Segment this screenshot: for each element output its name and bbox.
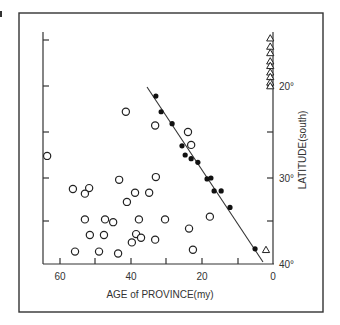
open-circle-marker bbox=[122, 108, 129, 115]
y-tick-40: 40° bbox=[279, 259, 294, 270]
filled-dot-marker bbox=[227, 205, 232, 210]
open-circle-marker bbox=[152, 173, 159, 180]
x-tick-0: 0 bbox=[270, 271, 276, 282]
open-circle-marker bbox=[152, 122, 159, 129]
open-circle-marker bbox=[123, 198, 130, 205]
filled-dot-marker bbox=[179, 143, 184, 148]
y-tick-30: 30° bbox=[279, 173, 294, 184]
open-circle-marker bbox=[185, 225, 192, 232]
open-circle-marker bbox=[86, 231, 93, 238]
open-circle-marker bbox=[44, 152, 51, 159]
open-circle-marker bbox=[206, 213, 213, 220]
data-markers bbox=[44, 35, 274, 257]
y-tick-20: 20° bbox=[279, 81, 294, 92]
scatter-chart: 60 40 20 0 AGE of PROVINCE(my) 20° 30° 4… bbox=[0, 0, 340, 325]
x-tick-40: 40 bbox=[125, 271, 137, 282]
open-circle-marker bbox=[137, 234, 144, 241]
open-circle-marker bbox=[81, 216, 88, 223]
open-circle-marker bbox=[188, 141, 195, 148]
open-circle-marker bbox=[71, 248, 78, 255]
open-circle-marker bbox=[101, 216, 108, 223]
open-circle-marker bbox=[146, 189, 153, 196]
filled-dot-marker bbox=[153, 94, 158, 99]
filled-dot-marker bbox=[208, 175, 213, 180]
open-circle-marker bbox=[114, 250, 121, 257]
open-triangle-marker bbox=[262, 246, 269, 252]
open-circle-marker bbox=[116, 176, 123, 183]
filled-dot-marker bbox=[183, 152, 188, 157]
open-circle-marker bbox=[81, 190, 88, 197]
x-axis bbox=[43, 258, 274, 264]
open-circle-marker bbox=[135, 216, 142, 223]
x-tick-60: 60 bbox=[54, 271, 66, 282]
x-tick-20: 20 bbox=[196, 271, 208, 282]
filled-dot-marker bbox=[195, 160, 200, 165]
regression-line bbox=[147, 87, 263, 262]
filled-dot-marker bbox=[170, 121, 175, 126]
open-circle-marker bbox=[184, 128, 191, 135]
open-circle-marker bbox=[189, 246, 196, 253]
open-circle-marker bbox=[95, 248, 102, 255]
filled-dot-marker bbox=[212, 188, 217, 193]
open-circle-marker bbox=[161, 216, 168, 223]
y-tick-labels: 20° 30° 40° bbox=[279, 81, 294, 270]
open-circle-marker bbox=[131, 189, 138, 196]
filled-dot-marker bbox=[189, 156, 194, 161]
filled-dot-marker bbox=[252, 246, 257, 251]
open-circle-marker bbox=[100, 231, 107, 238]
open-circle-marker bbox=[110, 219, 117, 226]
left-axis bbox=[43, 32, 49, 264]
open-circle-marker bbox=[152, 236, 159, 243]
filled-dot-marker bbox=[159, 109, 164, 114]
x-axis-label: AGE of PROVINCE(my) bbox=[106, 289, 213, 300]
open-circle-marker bbox=[128, 239, 135, 246]
filled-dot-marker bbox=[219, 188, 224, 193]
x-tick-labels: 60 40 20 0 bbox=[54, 271, 276, 282]
y-axis-label: LATITUDE(south) bbox=[297, 111, 308, 190]
figure-frame bbox=[19, 13, 323, 312]
open-circle-marker bbox=[69, 185, 76, 192]
